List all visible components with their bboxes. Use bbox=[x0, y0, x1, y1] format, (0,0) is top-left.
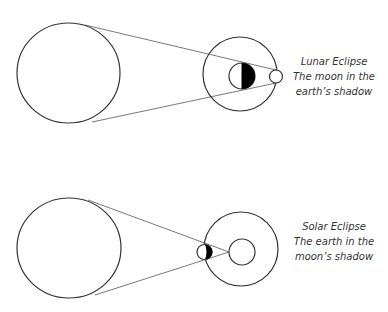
lunar-eclipse-group bbox=[17, 23, 283, 123]
lunar-eclipse-caption: Lunar Eclipse The moon in the earth’s sh… bbox=[284, 54, 384, 99]
caption-title: Solar Eclipse bbox=[284, 219, 384, 234]
caption-line: earth’s shadow bbox=[284, 84, 384, 99]
solar-eclipse-group bbox=[17, 198, 278, 298]
tangent-line-lower bbox=[92, 83, 276, 122]
moon-shadow-half bbox=[242, 63, 255, 89]
tangent-line-upper bbox=[88, 200, 229, 252]
tangent-line-upper bbox=[85, 25, 276, 70]
caption-line: moon’s shadow bbox=[284, 249, 384, 264]
caption-line: The earth in the bbox=[284, 234, 384, 249]
sun-circle bbox=[17, 23, 120, 123]
eclipse-diagram bbox=[0, 0, 388, 312]
earth-circle bbox=[229, 239, 255, 265]
caption-line: The moon in the bbox=[284, 69, 384, 84]
earth-circle bbox=[270, 70, 283, 83]
caption-title: Lunar Eclipse bbox=[284, 54, 384, 69]
sun-circle bbox=[17, 198, 121, 298]
solar-eclipse-caption: Solar Eclipse The earth in the moon’s sh… bbox=[284, 219, 384, 264]
